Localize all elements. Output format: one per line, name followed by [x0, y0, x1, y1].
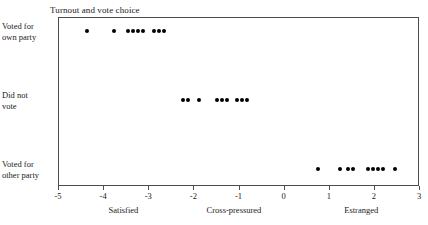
y-axis-label-1: Did notvote	[2, 90, 56, 111]
data-point	[197, 98, 201, 102]
data-point	[152, 29, 156, 33]
data-point	[240, 98, 244, 102]
data-point	[376, 167, 380, 171]
x-axis-tick-label: -3	[133, 191, 163, 202]
data-point	[393, 167, 397, 171]
data-point	[162, 29, 166, 33]
data-point	[85, 29, 89, 33]
data-point	[157, 29, 161, 33]
y-axis-label-line: own party	[2, 32, 56, 43]
x-axis-tick-label: 3	[404, 191, 428, 202]
x-axis-tick	[239, 186, 240, 190]
data-point	[381, 167, 385, 171]
data-point	[136, 29, 140, 33]
data-point	[131, 29, 135, 33]
x-axis-tick	[284, 186, 285, 190]
y-axis-label-line: Did not	[2, 90, 56, 101]
x-axis-tick-label: -2	[178, 191, 208, 202]
y-axis-label-line: vote	[2, 101, 56, 112]
x-axis-tick-label: 0	[269, 191, 299, 202]
x-axis-tick	[329, 186, 330, 190]
x-axis-tick	[58, 186, 59, 190]
y-axis-label-line: other party	[2, 170, 56, 181]
x-axis-tick	[148, 186, 149, 190]
chart-title: Turnout and vote choice	[50, 4, 140, 16]
region-label-1: Cross-pressured	[179, 205, 289, 216]
y-axis-label-line: Voted for	[2, 21, 56, 32]
data-point	[371, 167, 375, 171]
x-axis-tick	[419, 186, 420, 190]
region-label-0: Satisfied	[68, 205, 178, 216]
x-axis-tick-label: 1	[314, 191, 344, 202]
data-point	[338, 167, 342, 171]
data-point	[220, 98, 224, 102]
y-axis-label-0: Voted forown party	[2, 21, 56, 42]
data-point	[215, 98, 219, 102]
data-point	[186, 98, 190, 102]
data-point	[181, 98, 185, 102]
y-axis-label-2: Voted forother party	[2, 159, 56, 180]
data-point	[366, 167, 370, 171]
plot-area	[58, 17, 419, 186]
data-point	[225, 98, 229, 102]
data-point	[346, 167, 350, 171]
y-axis-label-line: Voted for	[2, 159, 56, 170]
data-point	[141, 29, 145, 33]
data-point	[235, 98, 239, 102]
region-label-2: Estranged	[306, 205, 416, 216]
data-point	[112, 29, 116, 33]
data-point	[316, 167, 320, 171]
data-point	[245, 98, 249, 102]
x-axis-tick	[103, 186, 104, 190]
x-axis-tick	[193, 186, 194, 190]
data-point	[126, 29, 130, 33]
x-axis-tick-label: 2	[359, 191, 389, 202]
data-point	[351, 167, 355, 171]
x-axis-tick-label: -1	[224, 191, 254, 202]
x-axis-tick-label: -4	[88, 191, 118, 202]
x-axis-tick-label: -5	[43, 191, 73, 202]
chart-figure: Turnout and vote choice Voted forown par…	[0, 0, 428, 225]
x-axis-tick	[374, 186, 375, 190]
